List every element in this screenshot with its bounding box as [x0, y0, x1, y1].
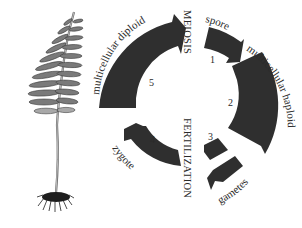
fern-life-cycle-diagram: 5 1 2 3 4 multicellular diploid spore mu… [0, 0, 302, 228]
fern-plant-illustration [28, 12, 83, 212]
stage-number-4: 4 [150, 134, 155, 145]
stage-number-5: 5 [149, 77, 154, 88]
phase-label-meiosis: MEIOSIS [182, 10, 193, 54]
fern-roots [37, 192, 74, 212]
phase-label-fertilization: FERTILIZATION [182, 118, 193, 198]
stage-label-zygote: zygote [110, 142, 138, 171]
arrow-stage-5-multicellular-diploid [99, 14, 186, 108]
stage-number-2: 2 [228, 97, 233, 108]
stage-number-1: 1 [210, 54, 215, 65]
stage-number-3: 3 [208, 131, 213, 142]
fern-leaflets [28, 18, 83, 114]
